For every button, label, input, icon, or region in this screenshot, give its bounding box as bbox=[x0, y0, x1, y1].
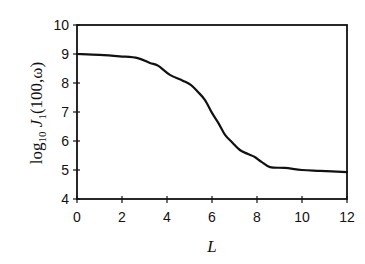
x-tick-label: 2 bbox=[118, 209, 126, 225]
x-tick-label: 0 bbox=[73, 209, 81, 225]
y-axis-label: log10 J1(100,ω) bbox=[27, 62, 48, 164]
y-tick-label: 6 bbox=[61, 133, 69, 149]
line-chart: 45678910 024681012 L log10 J1(100,ω) bbox=[0, 0, 365, 264]
data-line bbox=[77, 54, 347, 172]
x-tick-label: 6 bbox=[208, 209, 216, 225]
y-tick-label: 7 bbox=[61, 104, 69, 120]
y-tick-label: 8 bbox=[61, 75, 69, 91]
y-tick-label: 5 bbox=[61, 162, 69, 178]
x-axis-ticks: 024681012 bbox=[73, 196, 355, 225]
y-tick-label: 9 bbox=[61, 46, 69, 62]
y-tick-label: 10 bbox=[53, 17, 69, 33]
x-tick-label: 8 bbox=[253, 209, 261, 225]
x-tick-label: 12 bbox=[339, 209, 355, 225]
y-tick-label: 4 bbox=[61, 191, 69, 207]
x-axis-label: L bbox=[206, 237, 216, 256]
x-tick-label: 10 bbox=[294, 209, 310, 225]
y-axis-ticks: 45678910 bbox=[53, 17, 80, 207]
x-tick-label: 4 bbox=[163, 209, 171, 225]
